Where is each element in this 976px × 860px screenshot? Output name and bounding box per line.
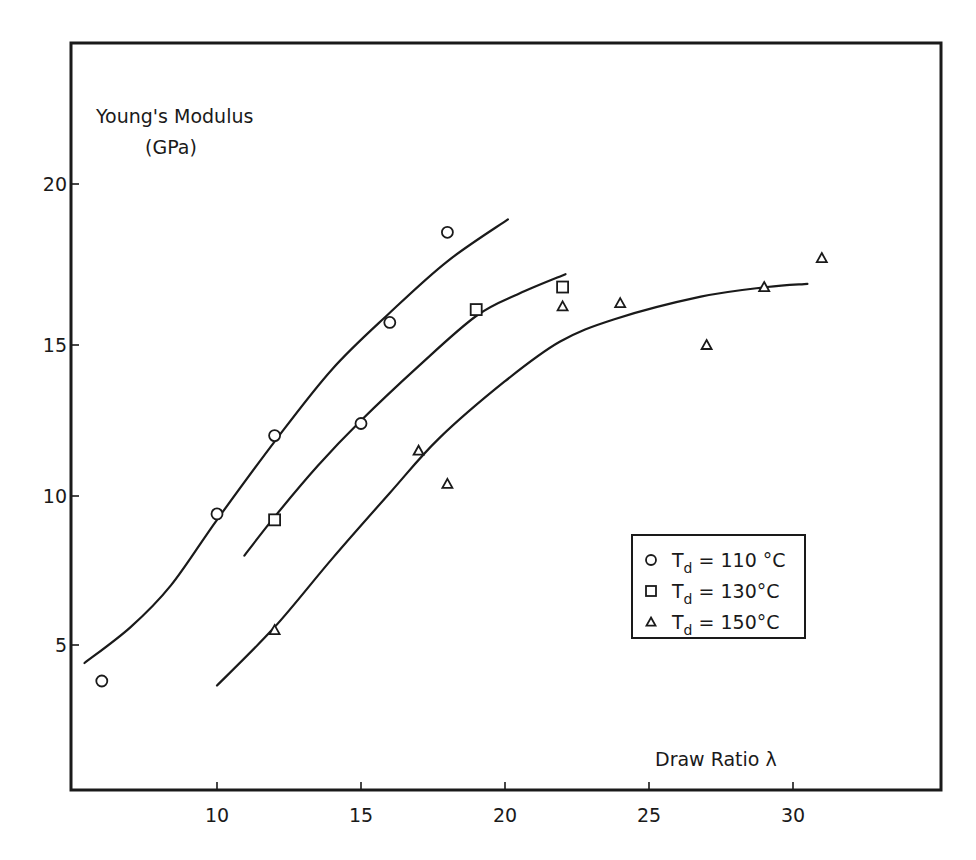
y-tick-label: 20 bbox=[43, 173, 67, 195]
x-tick-label: 20 bbox=[493, 804, 517, 826]
data-point-triangle bbox=[702, 340, 712, 349]
legend-marker-circle bbox=[646, 555, 656, 565]
data-point-circle bbox=[356, 418, 367, 429]
data-point-circle bbox=[96, 676, 107, 687]
data-point-triangle bbox=[615, 298, 625, 307]
data-point-square bbox=[557, 282, 568, 293]
data-point-triangle bbox=[558, 301, 568, 310]
y-axis-unit: (GPa) bbox=[145, 136, 197, 158]
data-point-triangle bbox=[270, 625, 280, 634]
chart: 1015202530 5101520 Young's Modulus (GPa)… bbox=[0, 0, 976, 860]
data-point-triangle bbox=[817, 253, 827, 262]
data-point-circle bbox=[384, 317, 395, 328]
y-axis-ticks: 5101520 bbox=[43, 173, 79, 656]
y-axis-label: Young's Modulus bbox=[95, 105, 253, 127]
plot-frame bbox=[71, 43, 941, 790]
legend: Td= 110 °CTd= 130°CTd= 150°C bbox=[632, 535, 805, 638]
fit-curve-square bbox=[244, 274, 565, 555]
legend-marker-square bbox=[646, 586, 656, 596]
x-tick-label: 25 bbox=[637, 804, 661, 826]
data-point-triangle bbox=[414, 446, 424, 455]
fit-curve-circle bbox=[85, 219, 508, 663]
data-point-circle bbox=[212, 508, 223, 519]
data-point-triangle bbox=[759, 282, 769, 291]
x-tick-label: 15 bbox=[349, 804, 373, 826]
y-tick-label: 10 bbox=[43, 485, 67, 507]
data-point-circle bbox=[269, 430, 280, 441]
y-tick-label: 5 bbox=[55, 634, 67, 656]
x-tick-label: 10 bbox=[205, 804, 229, 826]
data-point-triangle bbox=[442, 479, 452, 488]
y-tick-label: 15 bbox=[43, 334, 67, 356]
x-tick-label: 30 bbox=[781, 804, 805, 826]
data-point-circle bbox=[442, 227, 453, 238]
x-axis-label: Draw Ratio λ bbox=[655, 748, 777, 770]
data-point-square bbox=[269, 514, 280, 525]
data-point-square bbox=[471, 304, 482, 315]
